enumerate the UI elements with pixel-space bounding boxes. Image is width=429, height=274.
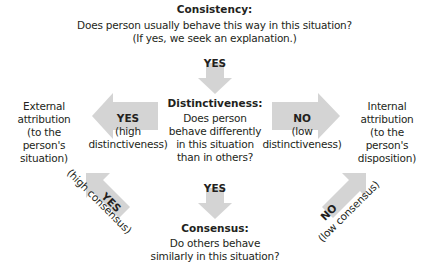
consensus-title: Consensus: — [120, 222, 310, 235]
internal-line-5: disposition) — [346, 152, 428, 165]
consensus-line-1: Do others behave — [120, 237, 310, 250]
distinctiveness-title: Distinctiveness: — [140, 97, 290, 110]
left-arrow-label-block: YES (high distinctiveness) — [88, 112, 168, 151]
internal-attribution: Internal attribution (to the person's di… — [346, 100, 428, 165]
internal-line-4: person's — [346, 139, 428, 152]
external-line-1: External — [4, 100, 84, 113]
distinctiveness-line-4: than in others? — [140, 151, 290, 164]
top-arrow-label: YES — [195, 57, 235, 70]
consensus-line-2: similarly in this situation? — [120, 250, 310, 263]
right-arrow-sub-1: (low — [262, 125, 342, 138]
external-line-5: situation) — [4, 152, 84, 165]
external-line-3: (to the — [4, 126, 84, 139]
external-line-2: attribution — [4, 113, 84, 126]
bottom-arrow-label: YES — [195, 182, 235, 195]
right-arrow-label-block: NO (low distinctiveness) — [262, 112, 342, 151]
consistency-title: Consistency: — [0, 3, 429, 16]
consistency-question: Does person usually behave this way in t… — [0, 19, 429, 32]
external-attribution: External attribution (to the person's si… — [4, 100, 84, 165]
consistency-note: (If yes, we seek an explanation.) — [0, 32, 429, 45]
external-line-4: person's — [4, 139, 84, 152]
left-arrow-sub-2: distinctiveness) — [88, 138, 168, 151]
consensus-block: Consensus: Do others behave similarly in… — [120, 222, 310, 263]
consistency-block: Consistency: Does person usually behave … — [0, 3, 429, 45]
right-arrow-sub-2: distinctiveness) — [262, 138, 342, 151]
internal-line-3: (to the — [346, 126, 428, 139]
internal-line-1: Internal — [346, 100, 428, 113]
left-arrow-label: YES — [88, 112, 168, 125]
right-arrow-label: NO — [262, 112, 342, 125]
left-arrow-sub-1: (high — [88, 125, 168, 138]
internal-line-2: attribution — [346, 113, 428, 126]
